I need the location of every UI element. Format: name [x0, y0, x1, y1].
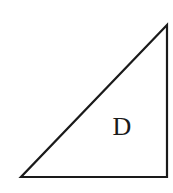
triangle-diagram: D [0, 0, 173, 193]
right-triangle [21, 25, 167, 177]
triangle-label: D [113, 112, 132, 141]
